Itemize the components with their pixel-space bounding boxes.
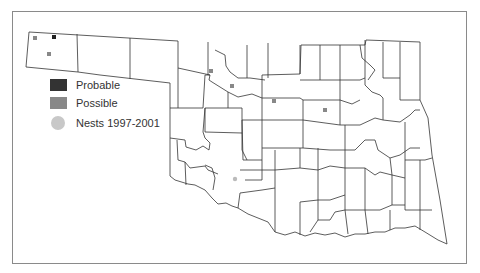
oklahoma-county-map — [0, 0, 480, 273]
marker-possible — [209, 69, 213, 73]
probable-swatch-icon — [50, 79, 67, 91]
marker-possible — [47, 52, 51, 56]
legend-label: Probable — [76, 79, 120, 91]
legend-label: Nests 1997-2001 — [76, 117, 160, 129]
marker-probable — [52, 35, 56, 39]
legend-item-probable: Probable — [50, 76, 160, 94]
legend-item-nests: Nests 1997-2001 — [50, 112, 160, 134]
marker-nest — [233, 177, 237, 181]
map-legend: Probable Possible Nests 1997-2001 — [50, 76, 160, 134]
legend-label: Possible — [76, 97, 118, 109]
marker-possible — [323, 108, 327, 112]
marker-possible — [272, 99, 276, 103]
nest-circle-icon — [51, 116, 65, 130]
legend-item-possible: Possible — [50, 94, 160, 112]
possible-swatch-icon — [50, 97, 67, 109]
county-boundaries — [26, 32, 447, 244]
marker-possible — [230, 84, 234, 88]
marker-possible — [33, 36, 37, 40]
